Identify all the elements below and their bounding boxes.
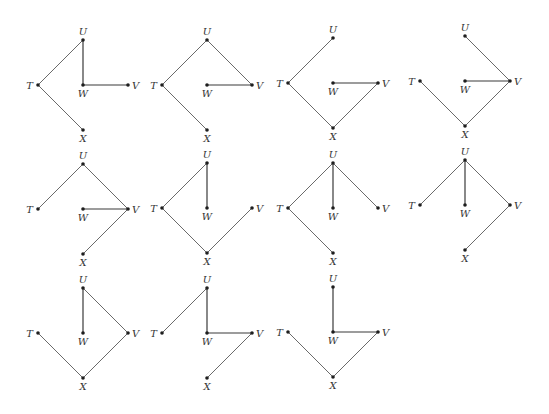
vertex-V <box>508 203 512 207</box>
vertex-label-U: U <box>329 273 338 284</box>
edge-T-U <box>162 288 207 333</box>
edge-T-X <box>38 333 83 378</box>
vertex-U <box>331 285 335 289</box>
vertex-label-W: W <box>78 336 89 347</box>
graph-7: TUVWX <box>276 149 391 267</box>
vertex-U <box>463 34 467 38</box>
vertex-W <box>205 83 209 87</box>
vertex-W <box>205 206 209 210</box>
vertex-label-X: X <box>460 129 469 140</box>
vertex-label-W: W <box>78 88 89 99</box>
edge-T-X <box>288 208 333 253</box>
vertex-V <box>250 206 254 210</box>
vertex-label-V: V <box>256 80 265 91</box>
vertex-label-U: U <box>79 150 88 161</box>
vertex-label-X: X <box>202 381 211 392</box>
spanning-trees-figure: TUVWXTUVWXTUVWXTUVWXTUVWXTUVWXTUVWXTUVWX… <box>0 0 549 414</box>
vertex-T <box>36 331 40 335</box>
vertex-label-T: T <box>408 200 416 211</box>
vertex-U <box>81 162 85 166</box>
vertex-U <box>331 161 335 165</box>
edge-T-U <box>38 40 83 85</box>
vertex-U <box>205 161 209 165</box>
vertex-V <box>376 206 380 210</box>
vertex-label-U: U <box>79 26 88 37</box>
vertex-label-V: V <box>132 328 141 339</box>
edge-U-V <box>465 36 510 81</box>
vertex-label-T: T <box>150 80 158 91</box>
vertex-X <box>331 126 335 130</box>
vertex-X <box>81 376 85 380</box>
vertex-W <box>81 331 85 335</box>
edge-X-V <box>333 332 378 377</box>
edge-T-U <box>288 38 333 83</box>
vertex-W <box>331 81 335 85</box>
vertex-W <box>81 83 85 87</box>
vertex-label-V: V <box>514 76 523 87</box>
vertex-label-T: T <box>26 328 34 339</box>
vertex-label-X: X <box>328 131 337 142</box>
vertex-T <box>418 203 422 207</box>
vertex-T <box>286 206 290 210</box>
vertex-label-U: U <box>329 24 338 35</box>
vertex-label-U: U <box>203 149 212 160</box>
vertex-X <box>81 128 85 132</box>
edge-T-U <box>38 164 83 209</box>
vertex-V <box>250 83 254 87</box>
vertex-X <box>331 251 335 255</box>
vertex-label-W: W <box>460 84 471 95</box>
graph-2: TUVWX <box>150 26 265 144</box>
vertex-label-X: X <box>202 133 211 144</box>
vertex-X <box>331 375 335 379</box>
vertex-U <box>331 36 335 40</box>
vertex-W <box>81 207 85 211</box>
graph-8: TUVWX <box>408 146 523 264</box>
vertex-X <box>205 251 209 255</box>
vertex-label-V: V <box>514 200 523 211</box>
edge-U-V <box>465 160 510 205</box>
vertex-label-U: U <box>79 274 88 285</box>
vertex-label-T: T <box>276 203 284 214</box>
edge-T-U <box>288 163 333 208</box>
edge-U-V <box>83 164 128 209</box>
vertex-W <box>463 79 467 83</box>
vertex-T <box>160 83 164 87</box>
vertex-V <box>126 83 130 87</box>
vertex-X <box>463 124 467 128</box>
vertex-label-X: X <box>78 381 87 392</box>
edge-T-X <box>288 332 333 377</box>
vertex-label-W: W <box>460 208 471 219</box>
vertex-W <box>463 203 467 207</box>
vertex-label-W: W <box>328 211 339 222</box>
vertex-label-V: V <box>382 327 391 338</box>
graph-3: TUVWX <box>276 24 391 142</box>
vertex-label-W: W <box>78 212 89 223</box>
edge-T-X <box>38 85 83 130</box>
vertex-label-V: V <box>132 80 141 91</box>
vertex-X <box>205 376 209 380</box>
vertex-label-U: U <box>461 22 470 33</box>
graph-10: TUVWX <box>150 274 265 392</box>
vertex-V <box>126 207 130 211</box>
vertex-label-X: X <box>78 257 87 268</box>
edge-T-U <box>420 160 465 205</box>
vertex-label-T: T <box>150 328 158 339</box>
vertex-V <box>508 79 512 83</box>
vertex-label-U: U <box>461 146 470 157</box>
vertex-label-X: X <box>78 133 87 144</box>
graph-9: TUVWX <box>26 274 141 392</box>
vertex-W <box>331 206 335 210</box>
vertex-label-T: T <box>408 76 416 87</box>
edge-T-X <box>162 85 207 130</box>
vertex-label-X: X <box>328 380 337 391</box>
vertex-label-V: V <box>382 203 391 214</box>
vertex-label-V: V <box>382 78 391 89</box>
vertex-T <box>286 81 290 85</box>
edge-U-V <box>207 40 252 85</box>
vertex-label-V: V <box>256 328 265 339</box>
vertex-X <box>205 128 209 132</box>
vertex-U <box>205 286 209 290</box>
vertex-label-X: X <box>202 256 211 267</box>
edge-X-V <box>207 333 252 378</box>
vertex-T <box>286 330 290 334</box>
